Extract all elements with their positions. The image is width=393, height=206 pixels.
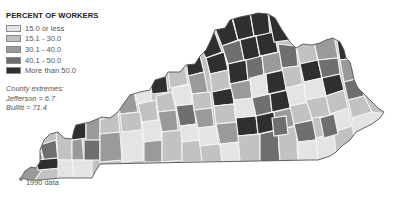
county-fills xyxy=(0,0,393,206)
fulton-bend-marker xyxy=(19,177,23,181)
kentucky-county-map xyxy=(0,0,393,206)
data-year-note: 1990 data xyxy=(26,178,59,187)
